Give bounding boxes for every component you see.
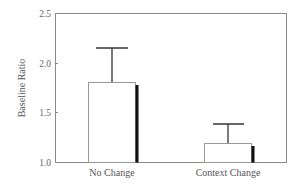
bar-shadow <box>252 146 255 163</box>
bar <box>89 83 136 163</box>
y-tick-label: 1.5 <box>39 108 51 118</box>
bar-shadow <box>136 85 139 163</box>
bar <box>205 144 252 163</box>
y-tick-label: 1.0 <box>39 158 51 168</box>
x-category-label: No Change <box>89 167 135 178</box>
bar-group-context-change: Context Change <box>196 124 261 178</box>
y-axis-label: Baseline Ratio <box>16 59 27 118</box>
x-category-label: Context Change <box>196 167 261 178</box>
y-axis: 2.5 2.0 1.5 1.0 Baseline Ratio <box>16 9 58 168</box>
bar-chart: 2.5 2.0 1.5 1.0 Baseline Ratio No Change… <box>0 0 300 188</box>
y-tick-label: 2.0 <box>39 59 51 69</box>
y-tick-label: 2.5 <box>39 9 51 19</box>
bar-group-no-change: No Change <box>89 48 139 178</box>
